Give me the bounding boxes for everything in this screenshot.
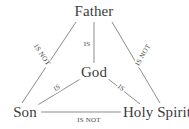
edge-label-son-holy-spirit: IS NOT <box>76 116 102 124</box>
node-label-son: Son <box>11 105 39 120</box>
node-label-god: God <box>79 65 109 80</box>
node-label-father: Father <box>73 4 116 19</box>
trinity-shield-diagram: Father God Son Holy Spirit IS NOT IS NOT… <box>0 0 189 129</box>
edge-label-father-god: IS <box>83 40 92 48</box>
node-label-holy-spirit: Holy Spirit <box>121 105 189 120</box>
